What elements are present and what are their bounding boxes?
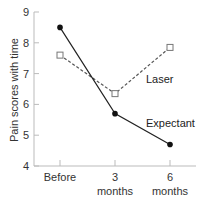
y-tick-label: 4 xyxy=(23,160,29,172)
open-square-marker xyxy=(112,91,118,97)
x-tick-label: 6 xyxy=(167,171,173,183)
y-tick-label: 7 xyxy=(23,68,29,80)
y-tick-label: 6 xyxy=(23,98,29,110)
y-axis-ticks: 456789 xyxy=(23,6,39,172)
open-square-marker xyxy=(57,52,63,58)
filled-circle-marker xyxy=(167,142,173,148)
y-tick-label: 9 xyxy=(23,6,29,18)
x-tick-label: Before xyxy=(44,171,76,183)
y-tick-label: 5 xyxy=(23,129,29,141)
open-square-marker xyxy=(167,44,173,50)
filled-circle-marker xyxy=(57,25,63,31)
laser-series xyxy=(57,44,173,96)
x-tick-label: months xyxy=(152,185,189,197)
line-chart: Pain scores with time 456789 Before3mont… xyxy=(0,0,205,204)
filled-circle-marker xyxy=(112,111,118,117)
y-axis-title: Pain scores with time xyxy=(8,38,20,142)
x-tick-label: months xyxy=(97,185,134,197)
y-tick-label: 8 xyxy=(23,37,29,49)
x-tick-label: 3 xyxy=(112,171,118,183)
expectant-series-label: Expectant xyxy=(146,117,195,129)
laser-series-label: Laser xyxy=(146,73,174,85)
